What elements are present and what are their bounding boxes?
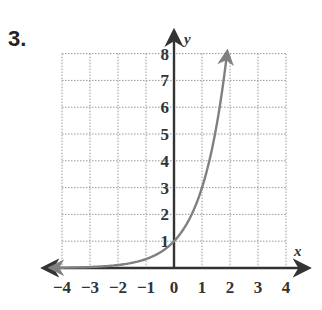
y-tick-label: 5 [161, 125, 170, 144]
y-tick-label: 6 [161, 98, 170, 117]
y-tick-label: 2 [161, 205, 170, 224]
tick-labels: −4−3−2−10123412345678 [53, 45, 291, 297]
curve-series [51, 52, 227, 268]
x-tick-label: 0 [170, 278, 179, 297]
y-tick-label: 7 [161, 71, 170, 90]
x-tick-label: 4 [282, 278, 291, 297]
y-tick-label: 3 [161, 179, 170, 198]
y-axis-label: y [182, 31, 191, 47]
axes [44, 32, 308, 268]
x-tick-label: −1 [137, 278, 155, 297]
x-tick-label: −3 [81, 278, 99, 297]
x-tick-label: −4 [53, 278, 72, 297]
y-tick-label: 8 [161, 45, 170, 64]
y-tick-label: 4 [161, 152, 170, 171]
x-tick-label: 2 [226, 278, 235, 297]
exponential-graph: −4−3−2−10123412345678 x y [0, 0, 322, 310]
x-axis-label: x [293, 243, 302, 259]
x-tick-label: 3 [254, 278, 263, 297]
x-tick-label: 1 [198, 278, 207, 297]
x-tick-label: −2 [109, 278, 127, 297]
